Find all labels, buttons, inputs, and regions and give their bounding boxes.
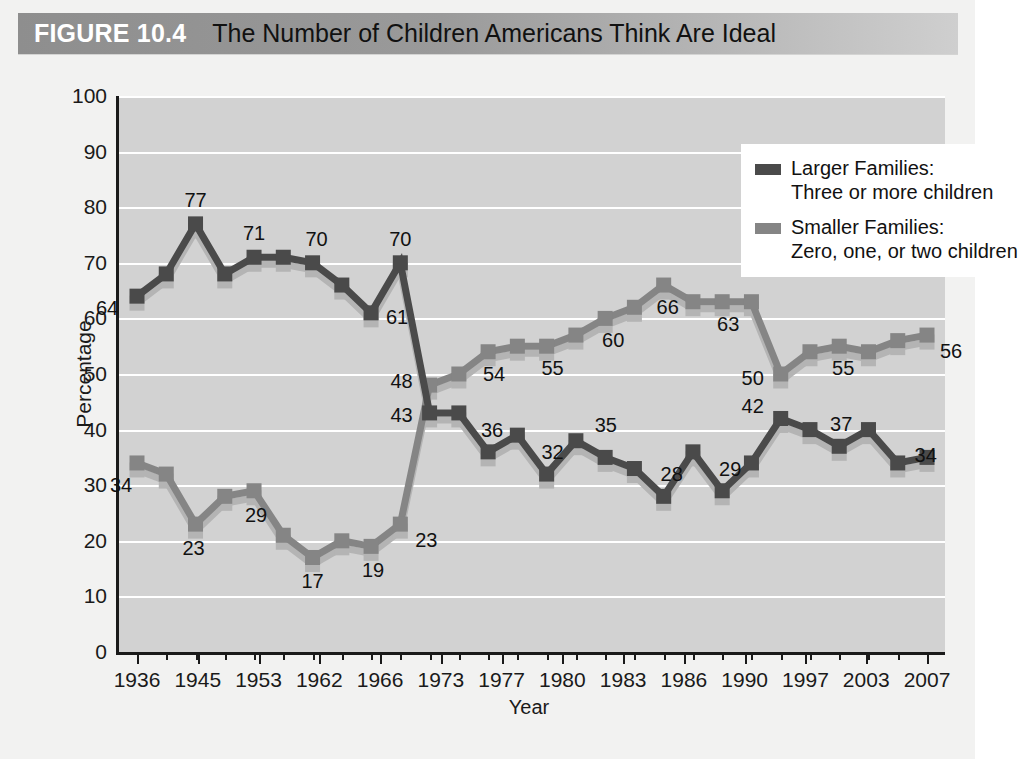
x-minor-tick-mark bbox=[459, 652, 461, 660]
x-minor-tick-mark bbox=[722, 652, 724, 660]
figure-number: FIGURE 10.4 bbox=[34, 19, 186, 48]
data-point-marker bbox=[422, 405, 437, 420]
chart-legend: Larger Families: Three or more children … bbox=[741, 144, 1022, 277]
x-minor-tick-mark bbox=[605, 652, 607, 660]
data-point-marker bbox=[539, 339, 554, 354]
data-point-marker bbox=[744, 294, 759, 309]
legend-swatch-smaller-families bbox=[755, 223, 781, 234]
y-tick-label: 60 bbox=[84, 306, 107, 330]
x-minor-tick-mark bbox=[693, 652, 695, 660]
y-tick-label: 50 bbox=[84, 362, 107, 386]
data-point-marker bbox=[393, 255, 408, 270]
y-tick-label: 30 bbox=[84, 473, 107, 497]
x-tick-mark bbox=[380, 652, 382, 664]
data-point-marker bbox=[861, 344, 876, 359]
x-tick-label: 1953 bbox=[235, 668, 282, 692]
series-line bbox=[137, 285, 927, 557]
x-tick-mark bbox=[198, 652, 200, 664]
data-point-marker bbox=[832, 439, 847, 454]
data-point-marker bbox=[773, 411, 788, 426]
data-point-marker bbox=[802, 422, 817, 437]
data-point-marker bbox=[627, 300, 642, 315]
data-point-marker bbox=[685, 294, 700, 309]
legend-label-larger-line1: Larger Families: bbox=[791, 157, 934, 179]
x-minor-tick-mark bbox=[868, 652, 870, 660]
data-point-marker bbox=[685, 444, 700, 459]
data-point-marker bbox=[276, 250, 291, 265]
data-point-marker bbox=[920, 450, 935, 465]
data-point-marker bbox=[656, 278, 671, 293]
x-tick-label: 2007 bbox=[904, 668, 951, 692]
data-point-marker bbox=[247, 250, 262, 265]
figure-title: The Number of Children Americans Think A… bbox=[212, 19, 776, 48]
data-point-marker bbox=[568, 433, 583, 448]
x-minor-tick-mark bbox=[196, 652, 198, 660]
plot-area: 0102030405060708090100 19361945195319621… bbox=[116, 96, 945, 655]
data-point-marker bbox=[890, 333, 905, 348]
data-point-marker bbox=[364, 539, 379, 554]
legend-label-smaller-line1: Smaller Families: bbox=[791, 216, 944, 238]
x-tick-mark bbox=[623, 652, 625, 664]
x-tick-mark bbox=[562, 652, 564, 664]
x-minor-tick-mark bbox=[342, 652, 344, 660]
data-point-marker bbox=[656, 489, 671, 504]
data-point-marker bbox=[773, 367, 788, 382]
data-point-marker bbox=[920, 328, 935, 343]
data-point-marker bbox=[393, 517, 408, 532]
figure-header-band: FIGURE 10.4 The Number of Children Ameri… bbox=[18, 13, 958, 54]
x-minor-tick-mark bbox=[517, 652, 519, 660]
x-tick-label: 1997 bbox=[782, 668, 829, 692]
x-minor-tick-mark bbox=[283, 652, 285, 660]
chart-frame: Percentage 0102030405060708090100 193619… bbox=[18, 60, 958, 748]
data-point-marker bbox=[305, 255, 320, 270]
x-tick-label: 2003 bbox=[843, 668, 890, 692]
data-point-marker bbox=[598, 311, 613, 326]
x-minor-tick-mark bbox=[166, 652, 168, 660]
legend-label-smaller-line2: Zero, one, or two children bbox=[791, 240, 1018, 264]
x-minor-tick-mark bbox=[576, 652, 578, 660]
y-tick-label: 90 bbox=[84, 140, 107, 164]
data-point-marker bbox=[861, 422, 876, 437]
x-tick-label: 1977 bbox=[478, 668, 525, 692]
x-minor-tick-mark bbox=[371, 652, 373, 660]
data-point-marker bbox=[510, 339, 525, 354]
x-tick-label: 1962 bbox=[296, 668, 343, 692]
data-point-marker bbox=[510, 428, 525, 443]
x-minor-tick-mark bbox=[634, 652, 636, 660]
data-point-marker bbox=[715, 294, 730, 309]
x-minor-tick-mark bbox=[225, 652, 227, 660]
x-minor-tick-mark bbox=[664, 652, 666, 660]
data-point-marker bbox=[130, 455, 145, 470]
x-tick-mark bbox=[259, 652, 261, 664]
x-tick-mark bbox=[684, 652, 686, 664]
x-tick-label: 1945 bbox=[174, 668, 221, 692]
data-point-marker bbox=[598, 450, 613, 465]
x-minor-tick-mark bbox=[927, 652, 929, 660]
data-point-marker bbox=[481, 344, 496, 359]
x-minor-tick-mark bbox=[810, 652, 812, 660]
x-tick-label: 1966 bbox=[357, 668, 404, 692]
x-minor-tick-mark bbox=[254, 652, 256, 660]
data-point-marker bbox=[159, 266, 174, 281]
data-point-marker bbox=[159, 467, 174, 482]
x-tick-label: 1990 bbox=[721, 668, 768, 692]
x-tick-mark bbox=[502, 652, 504, 664]
data-point-marker bbox=[627, 461, 642, 476]
data-point-marker bbox=[217, 266, 232, 281]
data-point-marker bbox=[334, 533, 349, 548]
y-tick-label: 20 bbox=[84, 529, 107, 553]
x-tick-mark bbox=[319, 652, 321, 664]
y-tick-label: 70 bbox=[84, 251, 107, 275]
x-axis-title: Year bbox=[116, 696, 942, 719]
data-point-marker bbox=[715, 483, 730, 498]
data-point-marker bbox=[276, 528, 291, 543]
data-point-marker bbox=[130, 289, 145, 304]
legend-label-larger-families: Larger Families: Three or more children bbox=[791, 157, 993, 204]
data-point-marker bbox=[539, 467, 554, 482]
legend-label-larger-line2: Three or more children bbox=[791, 181, 993, 205]
data-point-marker bbox=[802, 344, 817, 359]
legend-entry-smaller-families: Smaller Families: Zero, one, or two chil… bbox=[755, 216, 1022, 263]
x-tick-label: 1983 bbox=[600, 668, 647, 692]
data-point-marker bbox=[188, 216, 203, 231]
